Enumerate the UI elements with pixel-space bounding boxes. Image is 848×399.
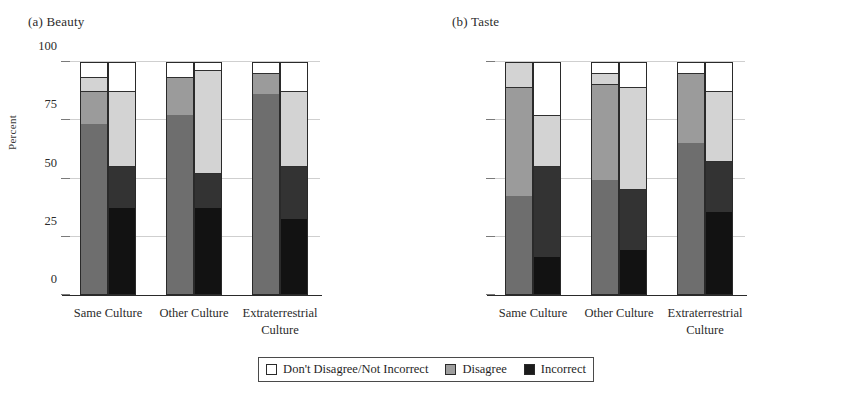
y-tick-label: 100 [38,39,57,54]
legend: Don't Disagree/Not IncorrectDisagreeInco… [258,357,594,382]
bar-segment [281,219,307,294]
bar-segment [195,70,221,173]
bar-segment [506,62,532,87]
bar-segment [592,62,618,73]
panel-title-beauty: (a) Beauty [28,14,85,30]
bar-segment [506,196,532,294]
bar-segment [167,77,193,114]
figure-canvas: (a) Beauty (b) Taste Percent 0255075100S… [0,0,848,399]
y-tick-mark [61,119,70,120]
x-category-label-line: Culture [651,322,759,339]
stacked-bar [705,62,733,295]
bar-segment [620,189,646,250]
legend-swatch-icon [524,364,535,375]
legend-item: Disagree [445,362,506,377]
bar-segment [109,91,135,166]
bar-segment [592,180,618,294]
bar-segment [109,208,135,294]
y-tick-label: 25 [45,214,58,229]
x-category-label-line: Extraterrestrial [226,305,334,322]
bar-segment [167,115,193,294]
y-tick-mark [486,236,495,237]
y-tick-mark [486,119,495,120]
stacked-bar [108,62,136,295]
bar-segment [592,73,618,85]
bar-segment [678,62,704,73]
bar-segment [534,115,560,166]
bar-segment [195,208,221,294]
stacked-bar [80,62,108,295]
legend-swatch-icon [266,364,277,375]
bar-segment [678,143,704,294]
plot-area-beauty: 0255075100Same CultureOther CultureExtra… [70,62,320,295]
bar-segment [281,166,307,220]
bar-segment [506,87,532,197]
stacked-bar [533,62,561,295]
stacked-bar [280,62,308,295]
bar-segment [678,73,704,143]
stacked-bar [252,62,280,295]
bar-segment [253,73,279,94]
bar-segment [706,62,732,91]
bar-segment [281,91,307,166]
legend-item: Don't Disagree/Not Incorrect [266,362,428,377]
x-category-label: ExtraterrestrialCulture [226,305,334,339]
y-tick-label: 50 [45,156,58,171]
y-tick-mark [61,236,70,237]
bar-segment [109,166,135,208]
y-tick-mark [61,178,70,179]
panel-title-taste: (b) Taste [452,14,499,30]
bar-segment [253,94,279,294]
bar-segment [167,62,193,77]
bar-segment [620,62,646,87]
stacked-bar [194,62,222,295]
y-tick-label: 0 [51,272,57,287]
bar-segment [706,161,732,212]
plot-area-taste: Same CultureOther CultureExtraterrestria… [495,62,745,295]
bar-segment [253,62,279,73]
bar-segment [81,91,107,124]
legend-label: Disagree [462,362,506,377]
bar-segment [81,124,107,294]
y-tick-mark [61,61,70,62]
y-tick-label: 75 [45,97,58,112]
bar-segment [109,62,135,91]
y-tick-mark [486,61,495,62]
stacked-bar [677,62,705,295]
y-tick-mark [486,178,495,179]
legend-item: Incorrect [524,362,586,377]
x-category-label-line: Extraterrestrial [651,305,759,322]
bar-segment [706,91,732,161]
bar-segment [706,212,732,294]
legend-label: Incorrect [541,362,586,377]
bar-segment [592,84,618,180]
bar-segment [195,62,221,70]
stacked-bar [166,62,194,295]
x-category-label-line: Culture [226,322,334,339]
bar-segment [81,77,107,91]
bar-segment [620,250,646,294]
stacked-bar [505,62,533,295]
bar-segment [81,62,107,77]
legend-swatch-icon [445,364,456,375]
bar-segment [534,62,560,115]
stacked-bar [591,62,619,295]
bar-segment [281,62,307,91]
legend-label: Don't Disagree/Not Incorrect [283,362,428,377]
bar-segment [534,166,560,257]
bar-segment [620,87,646,190]
bar-segment [195,173,221,208]
stacked-bar [619,62,647,295]
bar-segment [534,257,560,294]
x-category-label: ExtraterrestrialCulture [651,305,759,339]
y-axis-label: Percent [6,60,18,150]
